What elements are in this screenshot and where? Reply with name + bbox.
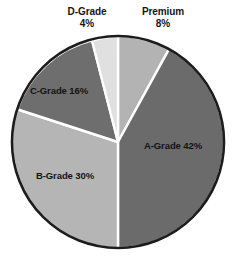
pie-label-b-grade: B-Grade 30% <box>36 170 94 181</box>
pie-label-premium: Premium 8% <box>128 6 198 30</box>
pie-chart-svg <box>0 0 235 266</box>
pie-label-premium-value: 8% <box>128 18 198 30</box>
pie-label-d-grade-value: 4% <box>56 18 118 30</box>
pie-label-premium-name: Premium <box>128 6 198 18</box>
pie-label-d-grade: D-Grade 4% <box>56 6 118 30</box>
pie-label-c-grade: C-Grade 16% <box>30 85 88 96</box>
pie-chart: D-Grade 4% Premium 8% C-Grade 16% B-Grad… <box>0 0 235 266</box>
pie-label-d-grade-name: D-Grade <box>56 6 118 18</box>
pie-label-a-grade: A-Grade 42% <box>144 140 202 151</box>
